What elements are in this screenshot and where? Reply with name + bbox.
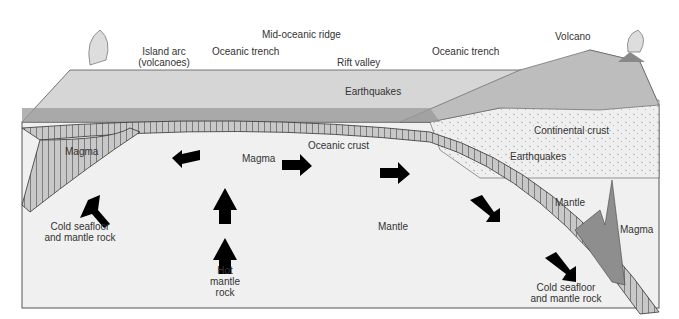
hot-line1: Hot	[217, 265, 233, 276]
label-cold-left: Cold seafloor and mantle rock	[38, 221, 122, 243]
label-earthquakes-right: Earthquakes	[510, 151, 566, 162]
island-arc-sub: (volcanoes)	[138, 57, 190, 68]
hot-line2: mantle	[210, 276, 240, 287]
cold-right-line2: and mantle rock	[530, 293, 601, 304]
label-mantle-right: Mantle	[555, 197, 585, 208]
label-island-arc: Island arc (volcanoes)	[128, 46, 200, 68]
label-cold-right: Cold seafloor and mantle rock	[524, 282, 608, 304]
cold-right-line1: Cold seafloor	[537, 282, 596, 293]
label-oceanic-trench-right: Oceanic trench	[432, 46, 499, 57]
diagram-canvas	[0, 0, 679, 319]
volcano-plume-left	[89, 30, 108, 65]
label-volcano: Volcano	[555, 31, 591, 42]
label-magma-right: Magma	[620, 224, 653, 235]
label-oceanic-crust: Oceanic crust	[308, 140, 369, 151]
label-continental-crust: Continental crust	[534, 125, 609, 136]
cold-left-line2: and mantle rock	[44, 232, 115, 243]
island-arc-text: Island arc	[142, 46, 185, 57]
cold-left-line1: Cold seafloor	[51, 221, 110, 232]
label-magma-left: Magma	[65, 146, 98, 157]
volcano-cone-right	[618, 52, 645, 62]
label-magma-center: Magma	[242, 153, 275, 164]
volcano-plume-right	[627, 30, 643, 52]
label-rift-valley: Rift valley	[337, 57, 380, 68]
ocean-layer	[22, 108, 440, 122]
label-earthquakes-top: Earthquakes	[345, 86, 401, 97]
label-mid-oceanic-ridge: Mid-oceanic ridge	[262, 29, 341, 40]
hot-line3: rock	[216, 287, 235, 298]
label-hot-mantle: Hot mantle rock	[205, 265, 245, 298]
label-mantle-center: Mantle	[378, 221, 408, 232]
label-oceanic-trench-left: Oceanic trench	[212, 46, 279, 57]
